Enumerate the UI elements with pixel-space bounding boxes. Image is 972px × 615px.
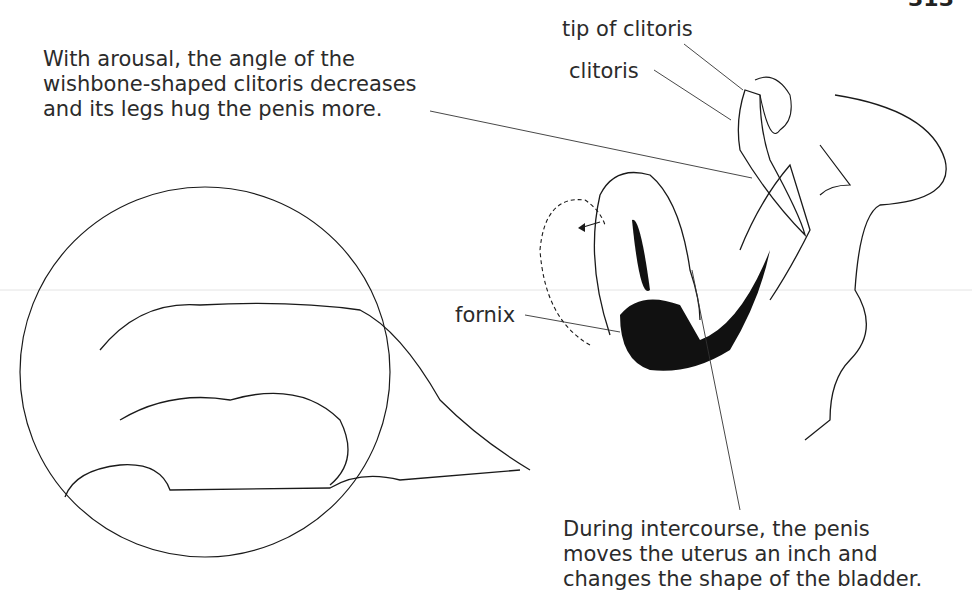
- uterus-shape: [620, 250, 770, 371]
- movement-arrowhead: [578, 223, 585, 232]
- vignette-circle: [20, 187, 390, 557]
- cross-section-illustration: [540, 77, 946, 440]
- bed-outline: [65, 465, 520, 497]
- labia-outline: [755, 77, 791, 133]
- uterine-cavity-shape: [632, 220, 650, 291]
- vignette-illustration: [20, 187, 530, 557]
- leader-line-tip-of-clitoris: [684, 44, 743, 90]
- caption-clitoris-arousal: With arousal, the angle of the wishbone-…: [43, 47, 417, 122]
- perineum-outline: [820, 145, 850, 195]
- leader-line-fornix: [525, 315, 620, 332]
- bladder-previous-outline: [540, 200, 605, 345]
- leader-line-caption-bottom: [692, 270, 740, 510]
- label-fornix: fornix: [455, 303, 515, 327]
- body-outline: [805, 95, 946, 440]
- bladder-outline: [594, 173, 700, 336]
- clitoris-shape: [738, 90, 805, 235]
- canal-outline: [740, 165, 810, 300]
- figure-outline-lower: [120, 393, 348, 485]
- label-tip-of-clitoris: tip of clitoris: [562, 17, 693, 41]
- label-clitoris: clitoris: [569, 59, 639, 83]
- page-number: 313: [908, 0, 954, 11]
- movement-arrow: [580, 222, 600, 228]
- caption-intercourse-uterus: During intercourse, the penis moves the …: [563, 517, 922, 592]
- leader-lines: [430, 44, 752, 510]
- figure-outline-upper: [100, 303, 530, 470]
- leader-line-caption-top: [430, 111, 752, 178]
- leader-line-clitoris: [654, 70, 731, 120]
